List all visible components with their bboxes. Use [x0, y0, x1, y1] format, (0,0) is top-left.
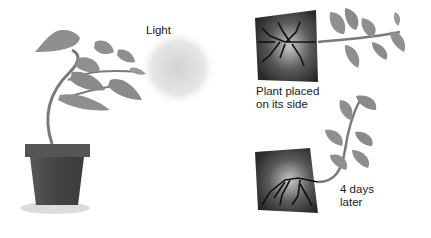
plant-on-side-line2: on its side	[256, 98, 319, 111]
plant-on-side-line1: Plant placed	[256, 85, 319, 98]
light-text: Light	[146, 24, 171, 36]
plant-on-side-label: Plant placed on its side	[256, 85, 319, 111]
plant-bending-toward-light	[20, 30, 146, 214]
days-later-line1: 4 days	[340, 183, 374, 196]
plant-on-side	[255, 8, 405, 82]
four-days-later-label: 4 days later	[340, 183, 374, 209]
days-later-line2: later	[340, 196, 374, 209]
light-source	[140, 30, 216, 106]
light-label: Light	[146, 24, 171, 37]
